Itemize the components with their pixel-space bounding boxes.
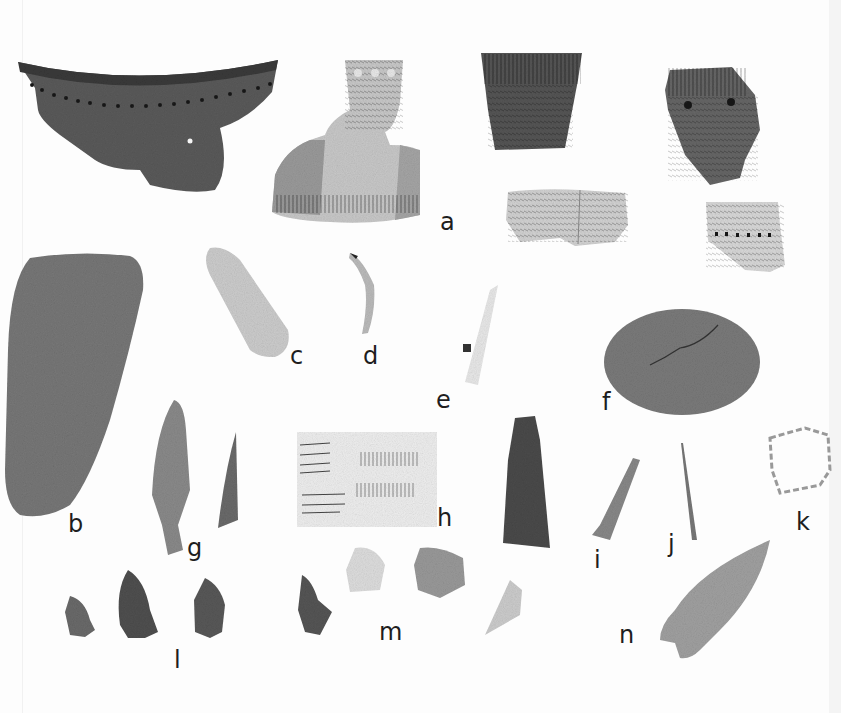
artifact-a-cordmarked-sherd-2: [665, 67, 760, 185]
label-d: d: [363, 344, 378, 368]
artifact-c-flake-blade: [206, 248, 289, 358]
label-c: c: [290, 344, 303, 368]
artifact-j-needle: [681, 443, 697, 540]
label-a: a: [440, 210, 455, 234]
artifact-i-tool: [592, 458, 640, 540]
label-g: g: [187, 536, 202, 560]
label-m: m: [379, 620, 402, 644]
label-e: e: [436, 388, 451, 412]
label-b: b: [68, 512, 83, 536]
artifact-b-stone-celt: [5, 253, 143, 516]
artifact-n-large-point: [660, 540, 770, 658]
artifact-f-hammerstone: [604, 309, 760, 415]
artifacts-illustration: [0, 0, 841, 713]
artifact-a-figure-sherd: [272, 60, 420, 223]
artifact-a-rim-sherd-large: [18, 60, 278, 192]
artifact-a-light-sherd-dots: [706, 202, 785, 272]
label-j: j: [668, 532, 675, 556]
artifact-plate: a b c d e f g h i j k l m n: [0, 0, 841, 713]
artifact-a-cordmarked-sherd-1: [481, 53, 582, 150]
label-i: i: [594, 548, 601, 572]
label-h: h: [437, 506, 452, 530]
label-k: k: [796, 510, 810, 534]
artifact-k-bead-string: [770, 428, 830, 493]
artifact-g-stemmed-points: [152, 400, 238, 555]
artifact-d-curved-bone: [349, 253, 374, 334]
artifact-a-light-sherd-pair: [506, 189, 628, 246]
artifact-h-incised-plaque: [297, 432, 437, 527]
artifact-e-bone-tube: [463, 285, 498, 385]
label-f: f: [602, 390, 610, 414]
label-n: n: [619, 623, 634, 647]
artifact-m-scrapers: [298, 547, 522, 635]
artifact-l-notched-points: [65, 570, 225, 638]
label-l: l: [174, 648, 181, 672]
artifact-slate-tablet: [503, 416, 550, 548]
